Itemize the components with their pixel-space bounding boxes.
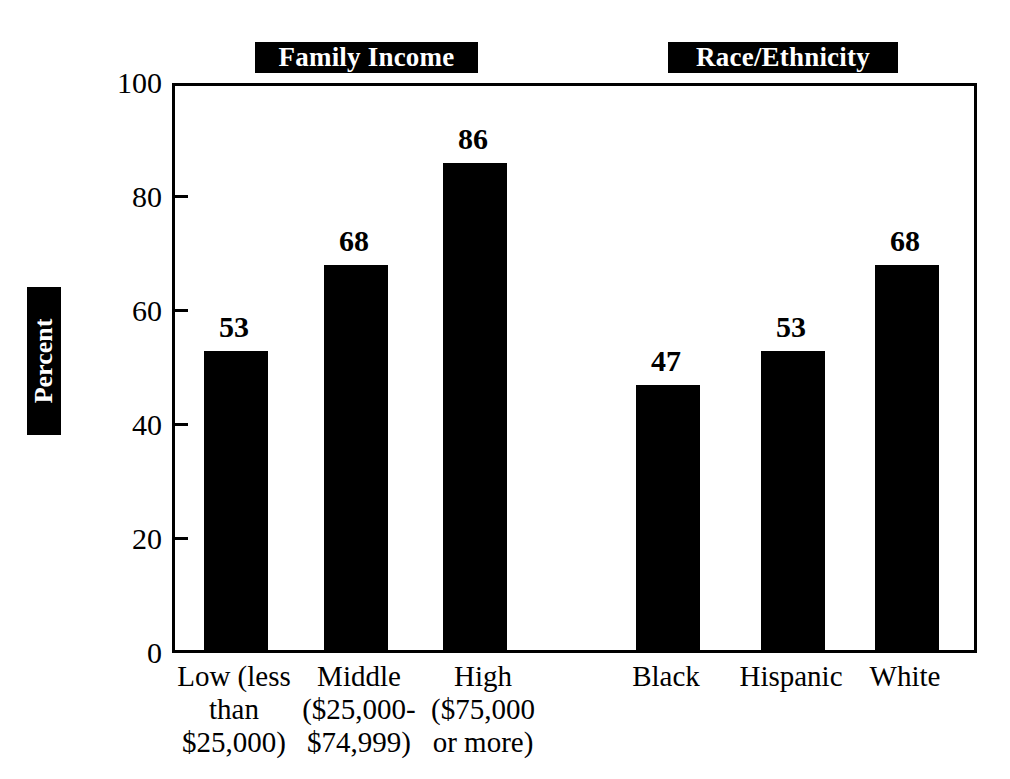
y-tick-label-40: 40 (90, 410, 162, 440)
bar-white (875, 265, 939, 653)
bar-high-income (443, 163, 507, 653)
y-tick-mark-80 (172, 195, 188, 198)
bar-value-high-income: 86 (411, 123, 535, 155)
bar-value-black: 47 (604, 345, 728, 377)
x-category-line: ($75,000 (409, 693, 557, 726)
y-tick-mark-20 (172, 537, 188, 540)
y-axis-title-label: Percent (30, 319, 58, 404)
y-tick-label-100: 100 (90, 68, 162, 98)
y-axis-tick-labels: 100 80 60 40 20 0 (80, 0, 162, 779)
group-banner-race-ethnicity: Race/Ethnicity (668, 42, 898, 73)
bar-hispanic (761, 351, 825, 653)
bar-value-white: 68 (843, 225, 967, 257)
bar-value-middle-income: 68 (292, 225, 416, 257)
y-tick-label-80: 80 (90, 182, 162, 212)
x-category-label-white: White (831, 660, 979, 693)
x-category-line: White (831, 660, 979, 693)
y-tick-mark-40 (172, 423, 188, 426)
plot-area (172, 83, 977, 653)
bar-black (636, 385, 700, 653)
bar-middle-income (324, 265, 388, 653)
bar-value-hispanic: 53 (729, 311, 853, 343)
bar-value-low-income: 53 (172, 311, 296, 343)
y-tick-label-60: 60 (90, 296, 162, 326)
x-category-line: or more) (409, 726, 557, 759)
bar-low-income (204, 351, 268, 653)
group-banner-family-income: Family Income (255, 42, 478, 73)
y-tick-label-0: 0 (90, 638, 162, 668)
x-category-label-high-income: High ($75,000 or more) (409, 660, 557, 759)
y-tick-label-20: 20 (90, 524, 162, 554)
y-axis-title-box: Percent (27, 287, 61, 435)
x-category-line: High (409, 660, 557, 693)
bar-chart-figure: Family Income Race/Ethnicity Percent 100… (0, 0, 1010, 779)
